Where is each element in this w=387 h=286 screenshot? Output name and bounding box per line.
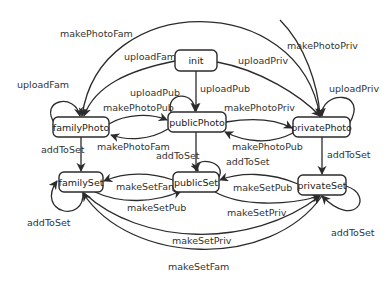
edge-label: makeSetPub <box>233 182 292 193</box>
state-label: publicSet <box>174 177 218 188</box>
state-label: familyPhoto <box>53 122 110 133</box>
edge-privateSet-publicSet-makeSetPub: makeSetPub <box>220 174 298 193</box>
edge-familyPhoto-publicPhoto-makePhotoPub: makePhotoPub <box>103 102 174 124</box>
edge-label: uploadPub <box>200 83 250 94</box>
edge-label: uploadFam <box>17 79 69 90</box>
state-label: publicPhoto <box>169 117 225 128</box>
edge-familySet-privateSet-makeSetPriv: makeSetPriv <box>84 193 320 246</box>
state-publicPhoto: publicPhoto <box>168 112 226 132</box>
state-familyPhoto: familyPhoto <box>53 117 110 137</box>
edge-label: makeSetFam <box>116 181 177 192</box>
state-label: privatePhoto <box>291 122 352 133</box>
edge-label: makeSetPub <box>127 202 186 213</box>
state-label: privateSet <box>297 180 346 191</box>
state-label: familySet <box>59 177 104 188</box>
edge-publicPhoto-publicSet-addToSet: addToSet <box>156 132 200 171</box>
edge-label: uploadPriv <box>238 55 288 66</box>
edge-familyPhoto-familySet-addToSet: addToSet <box>41 137 85 171</box>
edge-label: makePhotoPriv <box>287 40 358 51</box>
edge-label: makePhotoPriv <box>224 102 295 113</box>
edge-publicPhoto-privatePhoto-makePhotoPriv: makePhotoPriv <box>224 102 295 128</box>
edge-label: addToSet <box>156 150 200 161</box>
edge-label: uploadPub <box>130 87 180 98</box>
edge-label: makePhotoPub <box>232 141 303 152</box>
edge-label: addToSet <box>226 156 270 167</box>
edge-label: addToSet <box>41 144 85 155</box>
state-publicSet: publicSet <box>173 172 219 192</box>
state-privatePhoto: privatePhoto <box>291 117 352 137</box>
edge-label: uploadFam <box>124 51 176 62</box>
edge-label: makePhotoPub <box>103 102 174 113</box>
edge-label: addToSet <box>27 217 71 228</box>
edge-label: addToSet <box>327 149 371 160</box>
state-diagram: makePhotoFam makePhotoPriv uploadFam upl… <box>0 0 387 286</box>
edge-publicSet-familySet-makeSetFam: makeSetFam <box>104 174 177 192</box>
edge-privateSet-familySet-makeSetFam: makeSetFam <box>83 193 322 272</box>
edge-publicSet-privateSet-makeSetPriv: makeSetPriv <box>215 192 320 218</box>
edge-label: makePhotoFam <box>60 28 133 39</box>
edge-label: makeSetPriv <box>227 207 287 218</box>
edge-label: makeSetPriv <box>172 235 232 246</box>
edge-privatePhoto-privateSet-addToSet: addToSet <box>322 137 371 174</box>
edge-label: makeSetFam <box>168 261 229 272</box>
edge-label: addToSet <box>331 227 375 238</box>
edge-label: uploadPriv <box>329 83 379 94</box>
state-init: init <box>175 50 217 71</box>
edge-familySet-publicSet-makeSetPub: makeSetPub <box>95 191 186 213</box>
state-label: init <box>188 55 203 66</box>
edge-privatePhoto-publicPhoto-makePhotoPub: makePhotoPub <box>225 132 303 152</box>
state-familySet: familySet <box>59 172 104 192</box>
state-privateSet: privateSet <box>297 175 346 195</box>
